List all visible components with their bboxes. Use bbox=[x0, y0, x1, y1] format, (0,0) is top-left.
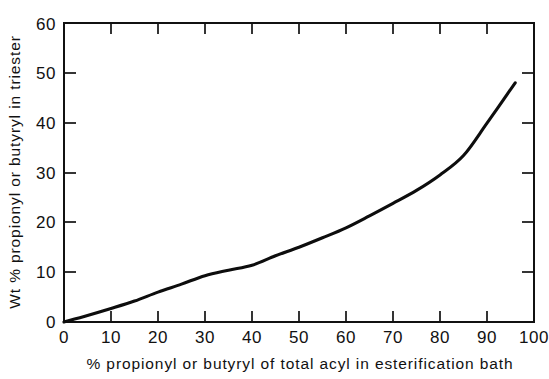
x-tick-label: 60 bbox=[336, 328, 356, 347]
x-tick-label: 80 bbox=[430, 328, 450, 347]
y-tick-label: 30 bbox=[36, 164, 56, 183]
chart-canvas: 0 10 20 30 40 50 60 0 10 20 30 40 50 60 … bbox=[0, 0, 549, 379]
x-tick-label: 70 bbox=[383, 328, 403, 347]
x-tick-label: 40 bbox=[242, 328, 262, 347]
x-tick-label: 0 bbox=[59, 328, 69, 347]
x-tick-label: 90 bbox=[477, 328, 497, 347]
x-axis-title: % propionyl or butyryl of total acyl in … bbox=[86, 355, 513, 372]
chart-figure: 0 10 20 30 40 50 60 0 10 20 30 40 50 60 … bbox=[0, 0, 549, 379]
x-tick-label: 10 bbox=[101, 328, 121, 347]
x-tick-label: 50 bbox=[289, 328, 309, 347]
y-tick-label: 40 bbox=[36, 114, 56, 133]
y-axis-title: Wt % propionyl or butyryl in triester bbox=[6, 35, 23, 309]
x-tick-label: 100 bbox=[519, 328, 549, 347]
y-tick-label: 20 bbox=[36, 213, 56, 232]
y-tick-label: 50 bbox=[36, 64, 56, 83]
y-tick-label: 0 bbox=[46, 313, 56, 332]
x-tick-label: 20 bbox=[148, 328, 168, 347]
y-tick-label: 60 bbox=[36, 15, 56, 34]
y-tick-label: 10 bbox=[36, 263, 56, 282]
x-tick-label: 30 bbox=[195, 328, 215, 347]
